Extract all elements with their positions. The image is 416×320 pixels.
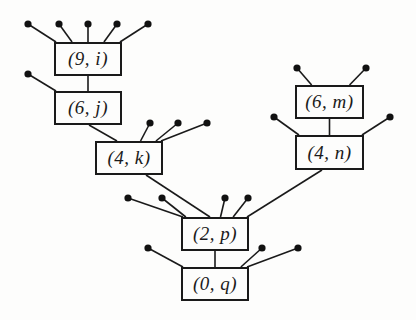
node-4-n: (4, n): [295, 135, 364, 170]
leaf-dot-icon: [144, 244, 151, 251]
node-label: (6, m): [305, 91, 353, 113]
leaf-stem: [148, 248, 183, 267]
node-label: (9, i): [68, 48, 108, 70]
leaf-stem: [120, 24, 148, 42]
node-label: (4, k): [107, 147, 150, 169]
leaf-dot-icon: [362, 64, 369, 71]
leaf-dot-icon: [174, 119, 181, 126]
tree-diagram: (9, i) (6, j) (4, k) (6, m) (4, n) (2, p…: [0, 0, 416, 320]
leaf-dot-icon: [84, 20, 91, 27]
node-4-k: (4, k): [95, 141, 163, 175]
leaf-dot-icon: [386, 113, 393, 120]
leaf-dot-icon: [146, 119, 153, 126]
node-9-i: (9, i): [54, 42, 122, 76]
leaf-dot-icon: [221, 194, 228, 201]
leaf-dot-icon: [144, 20, 151, 27]
node-label: (6, j): [68, 97, 108, 119]
node-6-m: (6, m): [295, 85, 364, 119]
leaf-dot-icon: [244, 194, 251, 201]
node-6-j: (6, j): [54, 91, 122, 125]
tree-edge: [247, 170, 322, 217]
leaf-dot-icon: [124, 194, 131, 201]
leaf-stem: [28, 74, 56, 91]
leaf-dot-icon: [270, 113, 277, 120]
leaf-dot-icon: [203, 119, 210, 126]
leaf-dot-icon: [293, 64, 300, 71]
leaf-dot-icon: [55, 20, 62, 27]
node-label: (0, q): [193, 273, 237, 295]
node-0-q: (0, q): [181, 267, 249, 301]
leaf-dot-icon: [158, 194, 165, 201]
node-2-p: (2, p): [181, 217, 249, 251]
leaf-stem: [274, 117, 299, 135]
leaf-dot-icon: [24, 70, 31, 77]
leaf-stem: [362, 117, 390, 135]
leaf-dot-icon: [294, 244, 301, 251]
node-label: (4, n): [307, 142, 351, 164]
tree-edge: [89, 125, 117, 141]
leaf-dot-icon: [258, 244, 265, 251]
leaf-dot-icon: [113, 20, 120, 27]
leaf-dot-icon: [24, 20, 31, 27]
leaf-stem: [233, 198, 248, 217]
node-label: (2, p): [193, 223, 237, 245]
leaf-stem: [247, 248, 298, 267]
leaf-stem: [28, 24, 56, 42]
